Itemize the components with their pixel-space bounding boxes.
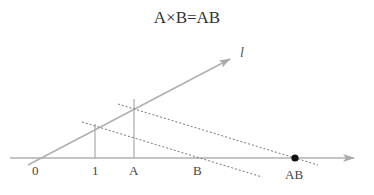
construction-diagram: 0 1 A B AB l (0, 0, 374, 195)
dashed-line-through-ab (118, 104, 318, 165)
oblique-line-l (28, 59, 230, 165)
label-ab: AB (285, 167, 303, 182)
label-one: 1 (92, 163, 99, 178)
label-line-l: l (240, 45, 244, 60)
label-a: A (129, 163, 139, 178)
point-ab (291, 154, 298, 161)
dashed-line-through-b (82, 122, 262, 177)
label-origin: 0 (32, 163, 39, 178)
label-b: B (193, 163, 202, 178)
